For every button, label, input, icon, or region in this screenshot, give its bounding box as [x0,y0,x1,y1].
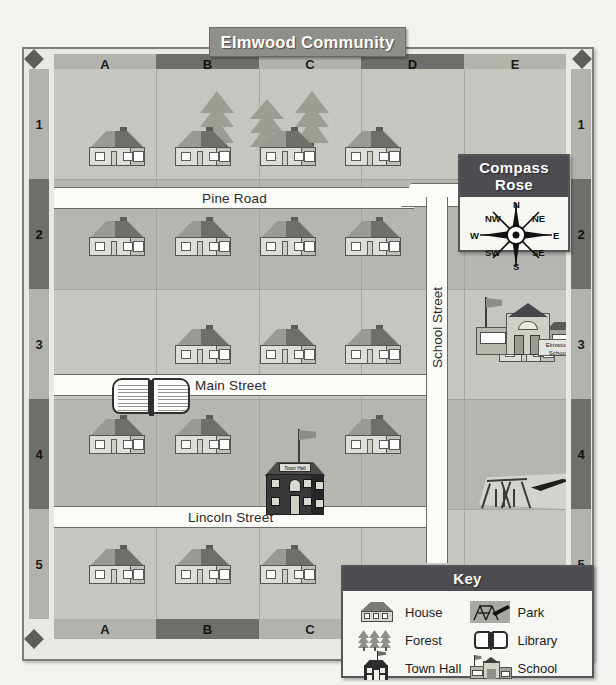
map-canvas: Pine Road School Street [54,69,566,619]
house-icon [357,600,397,624]
compass-label-sw: SW [485,247,500,258]
row-label-left-5: 5 [29,509,49,619]
compass-label-w: W [470,230,479,241]
key-entry-park: Park [470,600,583,624]
street-label-main-street: Main Street [195,378,266,393]
row-label-right-4: 4 [571,399,591,509]
map-frame: A B C D E A B C 1 2 3 4 5 1 2 3 4 5 [22,47,594,661]
street-label-school-street: School Street [430,287,445,368]
column-label-bottom-b: B [156,619,259,639]
row-label-left-3: 3 [29,289,49,399]
library-icon [470,628,510,652]
house-r5c2 [172,549,234,585]
compass-rose-title: Compass Rose [460,156,568,197]
key-entry-house: House [357,600,470,624]
key-label-town-hall: Town Hall [405,661,461,676]
street-label-pine-road: Pine Road [202,191,267,206]
row-label-left-4: 4 [29,399,49,509]
compass-rose-panel: Compass Rose N NE E [458,154,570,252]
house-r3c3 [257,329,319,365]
row-label-right-1: 1 [571,69,591,179]
map-key-title: Key [343,567,592,591]
key-entry-school: School [470,656,583,680]
grid-vline-1 [156,69,157,619]
house-r1c3 [257,131,319,167]
compass-rose-body: N NE E SE S SW W NW [460,197,568,273]
elmwood-school-building: Elmwood School [476,301,566,359]
map-key-body: House Park [343,591,592,685]
house-r5c1 [86,549,148,585]
row-header-bar-left: 1 2 3 4 5 [29,69,49,619]
park-icon [470,600,510,624]
compass-label-n: N [513,199,520,210]
house-r5c3 [257,549,319,585]
house-r2c1 [86,221,148,257]
forest-icon [357,628,397,652]
house-r3c4 [342,329,404,365]
town-hall-icon [357,656,397,680]
key-entry-forest: Forest [357,628,470,652]
row-header-bar-right: 1 2 3 4 5 [571,69,591,619]
compass-label-s: S [513,261,519,272]
school-icon [470,656,510,680]
house-r1c4 [342,131,404,167]
key-label-house: House [405,605,443,620]
map-key-panel: Key House [341,565,594,678]
house-r4c2 [172,419,234,455]
park-area [479,469,566,513]
key-label-school: School [518,661,558,676]
corner-diamond-top-right [572,49,592,69]
house-r4c4 [342,419,404,455]
house-r3c2 [172,329,234,365]
house-r2c4 [342,221,404,257]
key-label-forest: Forest [405,633,442,648]
key-entry-library: Library [470,628,583,652]
compass-label-ne: NE [532,213,545,224]
grid-vline-4 [464,69,465,619]
row-label-right-2: 2 [571,179,591,289]
school-sign: Elmwood School [538,339,566,356]
map-title-plaque: Elmwood Community [209,27,406,57]
row-label-left-2: 2 [29,179,49,289]
row-label-left-1: 1 [29,69,49,179]
corner-diamond-top-left [24,49,44,69]
house-r1c1 [86,131,148,167]
row-label-right-3: 3 [571,289,591,399]
grid-hline-2 [54,289,566,290]
corner-diamond-bottom-left [24,629,44,649]
compass-label-nw: NW [485,213,501,224]
town-hall-sign: Town Hall [279,463,311,472]
key-label-library: Library [518,633,558,648]
page-title: Elmwood Community [221,33,395,52]
key-entry-town-hall: Town Hall [357,656,470,680]
house-r2c2 [172,221,234,257]
house-r1c2 [172,131,234,167]
library-building [111,376,193,418]
compass-label-e: E [553,230,559,241]
key-label-park: Park [518,605,545,620]
compass-label-se: SE [532,247,545,258]
house-r2c3 [257,221,319,257]
street-school-street [426,197,448,563]
column-label-bottom-a: A [54,619,156,639]
town-hall-building: Town Hall [257,452,333,517]
house-r4c1 [86,419,148,455]
